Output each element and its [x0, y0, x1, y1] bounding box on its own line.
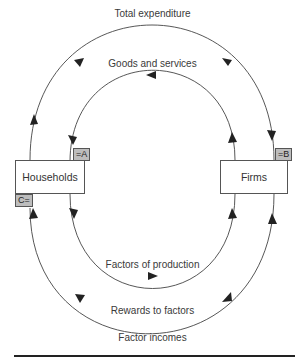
arrow-icon [75, 294, 85, 303]
tag-a: =A [73, 148, 90, 161]
arrow-icon [30, 114, 38, 125]
tag-c: C= [15, 194, 33, 207]
total-expenditure-label: Total expenditure [0, 8, 305, 19]
firms-node: Firms [220, 160, 288, 194]
arrow-icon [267, 130, 276, 141]
bottom-rule [14, 355, 295, 357]
factors-of-production-label: Factors of production [0, 259, 305, 270]
rewards-to-factors-label: Rewards to factors [0, 305, 305, 316]
arrow-icon [228, 208, 237, 219]
households-label: Households [22, 171, 77, 183]
inner-top-arc [70, 70, 235, 162]
tag-b: =B [275, 148, 292, 161]
arrow-icon [222, 292, 232, 302]
firms-label: Firms [241, 171, 267, 183]
arrow-icon [268, 213, 277, 224]
arrow-icon [68, 135, 77, 145]
arrow-icon [69, 208, 78, 219]
arrow-icon [146, 71, 156, 79]
outer-top-arc [30, 25, 274, 160]
households-node: Households [15, 160, 85, 194]
factor-incomes-label: Factor incomes [0, 332, 305, 343]
arrow-icon [228, 132, 237, 143]
goods-and-services-label: Goods and services [0, 58, 305, 69]
arrow-icon [148, 272, 158, 280]
